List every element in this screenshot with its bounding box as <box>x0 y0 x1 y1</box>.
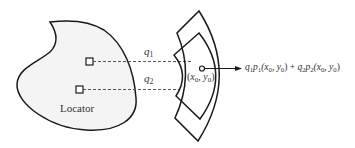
point-coordinate-label: (x0, y0) <box>187 72 215 84</box>
arrow-head-icon <box>235 66 242 71</box>
diagram-canvas: Locator q1 q2 (x0, y0) q1p1(x0, y0) + q2… <box>0 0 355 148</box>
locator-label: Locator <box>60 103 94 114</box>
weight-label-1: q1 <box>144 46 153 59</box>
diagram-graphics <box>0 0 355 148</box>
weight-label-2: q2 <box>144 73 153 86</box>
sample-point-2-icon <box>76 86 83 93</box>
sample-point-1-icon <box>86 58 93 65</box>
output-expression: q1p1(x0, y0) + q2p2(x0, y0) <box>245 63 340 74</box>
